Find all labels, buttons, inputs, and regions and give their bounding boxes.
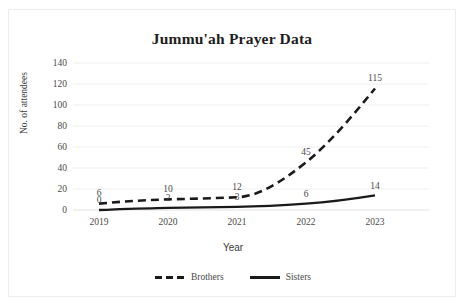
x-tick-label-2022: 2022 [274, 217, 338, 227]
legend-label-brothers: Brothers [191, 272, 224, 282]
data-label-sisters-2022: 6 [286, 189, 326, 199]
dashed-line-swatch-icon [155, 276, 185, 279]
legend-label-sisters: Sisters [286, 272, 311, 282]
plot-area: No. of attendees 140 120 100 80 60 40 20… [9, 10, 457, 298]
data-label-brothers-2023: 115 [355, 73, 395, 83]
x-tick-label-2023: 2023 [343, 217, 407, 227]
legend-item-sisters[interactable]: Sisters [250, 272, 311, 282]
chart-legend: Brothers Sisters [9, 272, 457, 282]
x-tick-label-2019: 2019 [67, 217, 131, 227]
x-axis-title: Year [9, 242, 457, 253]
data-label-sisters-2019: 0 [79, 195, 119, 205]
data-label-brothers-2022: 45 [286, 147, 326, 157]
data-label-sisters-2023: 14 [355, 181, 395, 191]
data-label-sisters-2020: 2 [148, 193, 188, 203]
solid-line-swatch-icon [250, 276, 280, 279]
data-label-brothers-2021: 12 [217, 182, 257, 192]
legend-item-brothers[interactable]: Brothers [155, 272, 224, 282]
x-tick-label-2020: 2020 [136, 217, 200, 227]
chart-svg [9, 10, 457, 298]
chart-card: Jummu'ah Prayer Data No. of attendees 14… [8, 9, 456, 297]
x-tick-label-2021: 2021 [205, 217, 269, 227]
data-label-sisters-2021: 3 [217, 192, 257, 202]
